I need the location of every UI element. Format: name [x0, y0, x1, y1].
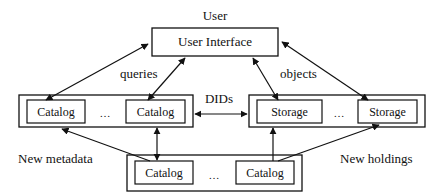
catalog-group: Catalog … Catalog — [19, 95, 193, 127]
user-label: User — [203, 8, 228, 23]
edge-ui-storage-1 — [253, 58, 278, 100]
source-catalog-group: Catalog … Catalog — [127, 155, 302, 191]
catalog-ellipsis: … — [100, 107, 111, 119]
storage-ellipsis: … — [334, 107, 345, 119]
dids-label: DIDs — [205, 91, 233, 106]
user-interface-label: User Interface — [178, 34, 252, 49]
storage-node-2-label: Storage — [369, 105, 406, 119]
source-catalog-node-1-label: Catalog — [145, 166, 182, 180]
queries-label: queries — [120, 66, 158, 81]
objects-label: objects — [280, 66, 317, 81]
architecture-diagram: User User Interface Catalog … Catalog St… — [0, 0, 442, 195]
new-metadata-label: New metadata — [18, 151, 93, 166]
source-catalog-node-2-label: Catalog — [246, 166, 283, 180]
storage-group: Storage … Storage — [249, 95, 425, 127]
catalog-node-1-label: Catalog — [37, 105, 74, 119]
new-holdings-label: New holdings — [340, 151, 413, 166]
user-interface-node: User Interface — [152, 28, 278, 56]
source-catalog-ellipsis: … — [209, 169, 220, 181]
storage-node-1-label: Storage — [271, 105, 308, 119]
catalog-node-2-label: Catalog — [137, 105, 174, 119]
